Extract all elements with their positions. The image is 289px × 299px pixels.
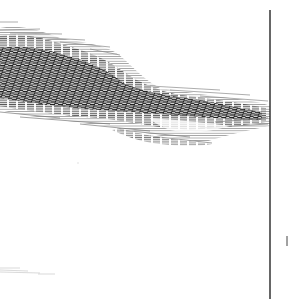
hatched-mass: [0, 22, 270, 146]
faint-speck: [77, 162, 79, 164]
engraving-artwork: [0, 0, 289, 299]
bottom-smudge: [0, 268, 55, 274]
engraved-image: [0, 0, 289, 299]
